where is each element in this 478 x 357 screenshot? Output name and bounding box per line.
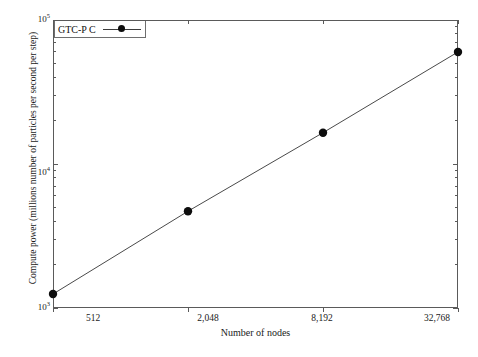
y-tick-label-1e4: 104 <box>2 168 50 177</box>
x-axis-title: Number of nodes <box>53 327 458 338</box>
legend-circle-marker-icon <box>118 25 125 32</box>
y-tick-exponent: 5 <box>47 12 50 19</box>
y-axis-tick-labels: 105 104 103 <box>0 0 50 357</box>
x-tick-label-512: 512 <box>86 313 100 323</box>
legend-label-gtc-p-c: GTC-P C <box>58 24 96 35</box>
legend-box: GTC-P C <box>54 21 146 38</box>
x-tick-label-8192: 8,192 <box>311 313 332 323</box>
x-tick-label-32768: 32,768 <box>424 313 450 323</box>
y-axis-title-wrapper: Compute power (millions number of partic… <box>28 8 42 308</box>
y-tick-label-1e3: 103 <box>2 303 50 312</box>
figure-container: 105 104 103 512 2,048 8,192 32,768 Numbe… <box>0 0 478 357</box>
x-tick-label-2048: 2,048 <box>197 313 218 323</box>
y-tick-exponent: 3 <box>47 300 50 307</box>
plot-area <box>53 20 458 308</box>
legend-marker-sample <box>103 24 141 34</box>
y-axis-title: Compute power (millions number of partic… <box>28 8 38 308</box>
y-tick-exponent: 4 <box>47 165 50 172</box>
y-tick-label-1e5: 105 <box>2 15 50 24</box>
